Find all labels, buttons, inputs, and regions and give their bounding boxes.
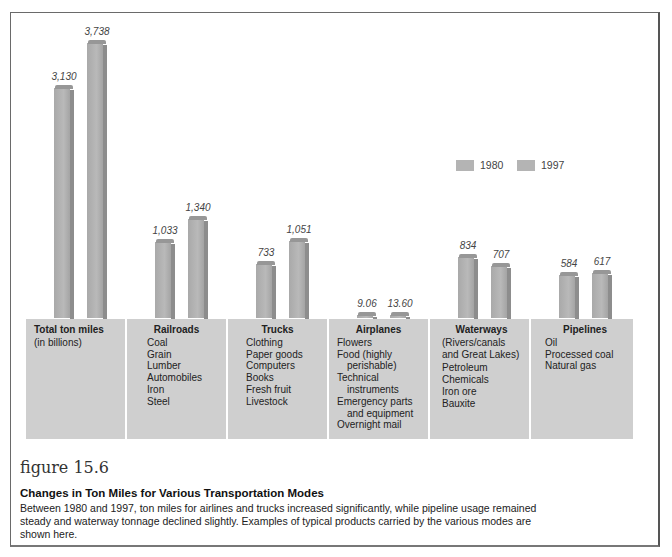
value-label: 13.60 bbox=[375, 298, 425, 309]
panel-item: Natural gas bbox=[545, 360, 625, 372]
panel-title: Trucks bbox=[236, 324, 319, 336]
value-label: 3,738 bbox=[72, 26, 122, 37]
panel-item: Food (highly bbox=[337, 349, 420, 361]
panel-item: Paper goods bbox=[246, 349, 319, 361]
panel-item: Computers bbox=[246, 360, 319, 372]
value-label: 1,033 bbox=[140, 225, 190, 236]
value-label: 1,340 bbox=[173, 202, 223, 213]
bar-1997-pipelines bbox=[592, 273, 608, 318]
value-label: 707 bbox=[476, 249, 526, 260]
value-label: 1,051 bbox=[274, 224, 324, 235]
panel-item: Bauxite bbox=[442, 398, 521, 410]
legend-label-1997: 1997 bbox=[541, 159, 564, 171]
legend-label-1980: 1980 bbox=[480, 159, 503, 171]
panel-item: perishable) bbox=[337, 360, 420, 372]
panel-item: and equipment bbox=[337, 408, 420, 420]
panel-item: Emergency parts bbox=[337, 396, 420, 408]
panel-item: (Rivers/canals bbox=[442, 337, 521, 349]
bar-1980-railroads bbox=[155, 242, 171, 318]
panel-title: Railroads bbox=[135, 324, 218, 336]
panel-item: Processed coal bbox=[545, 349, 625, 361]
bar-1980-airplanes bbox=[357, 315, 373, 318]
panel-item: Coal bbox=[147, 337, 218, 349]
figure-number: figure 15.6 bbox=[20, 458, 109, 477]
panel-item: Steel bbox=[147, 396, 218, 408]
legend-item-1997: 1997 bbox=[517, 159, 564, 171]
caption-body: Between 1980 and 1997, ton miles for air… bbox=[20, 502, 540, 541]
value-label: 617 bbox=[577, 256, 627, 267]
bar-1980-pipelines bbox=[559, 275, 575, 318]
legend-swatch-1997 bbox=[517, 160, 535, 171]
panel-item: Livestock bbox=[246, 396, 319, 408]
panel-trucks: Trucks Clothing Paper goods Computers Bo… bbox=[228, 319, 327, 439]
panel-item: Books bbox=[246, 372, 319, 384]
panel-item: Petroleum bbox=[442, 362, 521, 374]
bar-1980-trucks bbox=[256, 264, 272, 318]
panel-total: Total ton miles (in billions) bbox=[26, 319, 125, 439]
panel-item: Grain bbox=[147, 349, 218, 361]
panel-item: instruments bbox=[337, 384, 420, 396]
value-label: 3,130 bbox=[39, 71, 89, 82]
bar-1997-trucks bbox=[289, 241, 305, 318]
panel-item: Chemicals bbox=[442, 374, 521, 386]
panel-title: Airplanes bbox=[337, 324, 420, 336]
panel-item: Iron bbox=[147, 384, 218, 396]
panel-waterways: Waterways (Rivers/canals and Great Lakes… bbox=[430, 319, 529, 439]
bar-1980-waterways bbox=[458, 257, 474, 318]
panel-pipelines: Pipelines Oil Processed coal Natural gas bbox=[531, 319, 633, 439]
panel-item: Automobiles bbox=[147, 372, 218, 384]
legend-swatch-1980 bbox=[456, 160, 474, 171]
panel-item: Iron ore bbox=[442, 386, 521, 398]
panel-item: Technical bbox=[337, 372, 420, 384]
panel-railroads: Railroads Coal Grain Lumber Automobiles … bbox=[127, 319, 226, 439]
bar-1997-waterways bbox=[491, 266, 507, 318]
panel-item: Flowers bbox=[337, 337, 420, 349]
panel-title: Total ton miles bbox=[34, 324, 117, 336]
panel-item: Lumber bbox=[147, 360, 218, 372]
panel-item: Fresh fruit bbox=[246, 384, 319, 396]
panel-item: Oil bbox=[545, 337, 625, 349]
caption-title: Changes in Ton Miles for Various Transpo… bbox=[20, 487, 324, 499]
panel-item: and Great Lakes) bbox=[442, 349, 521, 361]
panel-item: Overnight mail bbox=[337, 419, 420, 431]
panel-item: Clothing bbox=[246, 337, 319, 349]
bar-1997-total-ton-miles bbox=[87, 43, 103, 318]
panel-item: (in billions) bbox=[34, 337, 117, 349]
panel-title: Pipelines bbox=[545, 324, 625, 336]
bar-1980-total-ton-miles bbox=[54, 88, 70, 318]
bar-1997-airplanes bbox=[390, 315, 406, 318]
panel-airplanes: Airplanes Flowers Food (highly perishabl… bbox=[329, 319, 428, 439]
legend-item-1980: 1980 bbox=[456, 159, 503, 171]
value-label: 733 bbox=[241, 247, 291, 258]
bar-1997-railroads bbox=[188, 219, 204, 318]
panel-title: Waterways bbox=[442, 324, 521, 336]
